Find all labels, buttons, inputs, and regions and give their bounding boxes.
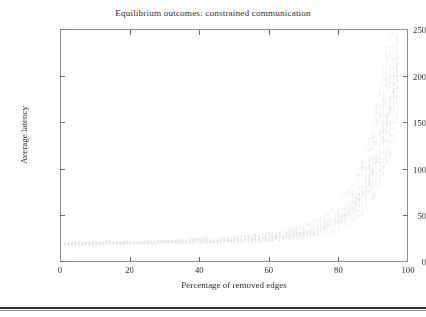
y-axis-label-100: 100 bbox=[378, 165, 426, 175]
page-divider-rule bbox=[0, 307, 426, 309]
x-axis-label-40: 40 bbox=[179, 265, 219, 275]
x-axis-label-60: 60 bbox=[249, 265, 289, 275]
y-axis-label-150: 150 bbox=[378, 118, 426, 128]
x-tick-top-20 bbox=[130, 30, 131, 35]
x-tick-20 bbox=[130, 257, 131, 262]
page-divider-rule-secondary bbox=[0, 310, 426, 311]
x-tick-60 bbox=[269, 257, 270, 262]
x-axis-label-80: 80 bbox=[318, 265, 358, 275]
x-tick-top-60 bbox=[269, 30, 270, 35]
y-tick-0 bbox=[60, 261, 65, 262]
y-axis-label-200: 200 bbox=[378, 72, 426, 82]
x-axis-title: Percentage of removed edges bbox=[60, 280, 408, 290]
x-tick-40 bbox=[199, 257, 200, 262]
x-axis-label-20: 20 bbox=[110, 265, 150, 275]
y-axis-label-250: 250 bbox=[378, 25, 426, 35]
x-tick-top-80 bbox=[338, 30, 339, 35]
x-axis-label-100: 100 bbox=[388, 265, 426, 275]
x-axis-label-0: 0 bbox=[40, 265, 80, 275]
figure-container: Equilibrium outcomes: constrained commun… bbox=[0, 0, 426, 300]
plot-area bbox=[60, 29, 408, 262]
x-tick-80 bbox=[338, 257, 339, 262]
y-axis-title: Average latency bbox=[19, 65, 29, 205]
y-tick-50 bbox=[60, 215, 65, 216]
y-tick-100 bbox=[60, 169, 65, 170]
y-tick-200 bbox=[60, 76, 65, 77]
x-tick-top-40 bbox=[199, 30, 200, 35]
y-axis-label-50: 50 bbox=[378, 211, 426, 221]
y-tick-250 bbox=[60, 29, 65, 30]
chart-title: Equilibrium outcomes: constrained commun… bbox=[0, 8, 426, 18]
scatter-plot-canvas bbox=[61, 30, 407, 261]
y-tick-150 bbox=[60, 122, 65, 123]
